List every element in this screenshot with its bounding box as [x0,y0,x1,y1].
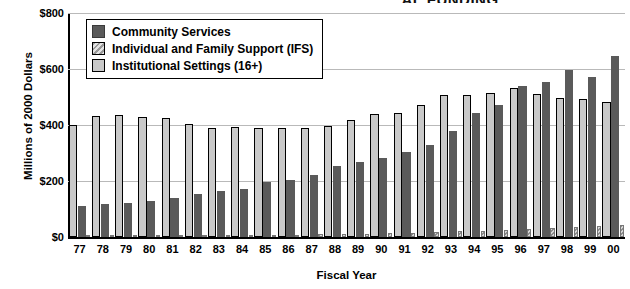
x-tick-label: 85 [259,243,271,255]
bar-institutional [556,98,564,237]
bar-community-services [426,145,434,237]
bar-institutional [278,128,286,237]
bar-ifs [133,235,137,237]
y-tick-label: $600 [8,63,64,75]
x-tick-label: 95 [491,243,503,255]
bar-institutional [510,88,518,237]
legend-swatch-ifs [92,42,105,55]
legend-label-community-services: Community Services [112,25,231,39]
x-tick-label: 92 [422,243,434,255]
bar-community-services [495,105,503,237]
x-tick-label: 91 [398,243,410,255]
y-tick-label: $800 [8,7,64,19]
bar-ifs [179,235,183,237]
chart-figure: AL FUNDING Millions of 2000 Dollars $0$2… [0,0,630,289]
y-axis-ticks: $0$200$400$600$800 [0,0,64,289]
bar-community-services [170,198,178,237]
x-tick-label: 94 [468,243,480,255]
bar-community-services [101,204,109,237]
bar-institutional [208,128,216,237]
legend-item-institutional: Institutional Settings (16+) [92,57,313,74]
bar-institutional [394,113,402,237]
bar-community-services [379,158,387,237]
bar-group [486,13,509,237]
x-tick-label: 93 [445,243,457,255]
legend-item-ifs: Individual and Family Support (IFS) [92,40,313,57]
chart-title-clipped: AL FUNDING [330,0,570,3]
bar-group [602,13,625,237]
bar-institutional [69,125,77,237]
x-tick-label: 84 [236,243,248,255]
bar-community-services [542,82,550,237]
bar-community-services [240,189,248,237]
bar-community-services [518,86,526,237]
bar-ifs [365,234,369,237]
bar-group [579,13,602,237]
bar-ifs [504,230,508,237]
bar-community-services [402,152,410,237]
x-tick-label: 80 [143,243,155,255]
bar-institutional [602,102,610,237]
bar-institutional [370,114,378,237]
x-tick-label: 82 [190,243,202,255]
bar-community-services [78,206,86,237]
bar-ifs [550,228,554,237]
bar-community-services [217,191,225,237]
x-tick-label: 79 [120,243,132,255]
bar-group [323,13,346,237]
bar-institutional [92,116,100,237]
bar-ifs [597,226,601,237]
x-tick-label: 96 [514,243,526,255]
bar-group [347,13,370,237]
bar-community-services [449,131,457,237]
x-tick-label: 87 [306,243,318,255]
bar-institutional [231,127,239,237]
x-tick-label: 89 [352,243,364,255]
x-tick-label: 00 [607,243,619,255]
bar-ifs [86,235,90,237]
bar-group [555,13,578,237]
bar-group [509,13,532,237]
bar-institutional [463,95,471,237]
bar-community-services [472,113,480,237]
bar-ifs [342,234,346,237]
bar-institutional [162,118,170,237]
bar-ifs [156,235,160,237]
bar-ifs [620,225,624,237]
bar-ifs [110,235,114,237]
bar-institutional [440,95,448,237]
bar-community-services [286,180,294,237]
bar-ifs [434,232,438,237]
legend-label-ifs: Individual and Family Support (IFS) [112,42,313,56]
bar-community-services [333,166,341,237]
y-tick-label: $200 [8,175,64,187]
y-tick-label: $400 [8,119,64,131]
bar-ifs [574,227,578,237]
bar-community-services [611,56,619,237]
bar-institutional [324,126,332,237]
bar-group [532,13,555,237]
chart-legend: Community Services Individual and Family… [86,19,323,79]
bar-ifs [272,235,276,237]
bar-community-services [124,203,132,237]
bar-ifs [249,235,253,237]
bar-group [439,13,462,237]
x-tick-label: 98 [561,243,573,255]
x-axis-line [68,237,625,239]
bar-institutional [301,128,309,237]
bar-ifs [202,235,206,237]
x-tick-label: 86 [282,243,294,255]
bar-ifs [481,231,485,237]
bar-institutional [138,117,146,237]
y-tick-label: $0 [8,231,64,243]
bar-institutional [417,105,425,237]
bar-ifs [458,231,462,237]
x-tick-label: 77 [73,243,85,255]
bar-group [393,13,416,237]
bar-institutional [486,93,494,237]
bar-community-services [310,175,318,237]
bar-community-services [263,182,271,237]
legend-item-community-services: Community Services [92,23,313,40]
bar-group [416,13,439,237]
x-tick-label: 81 [166,243,178,255]
